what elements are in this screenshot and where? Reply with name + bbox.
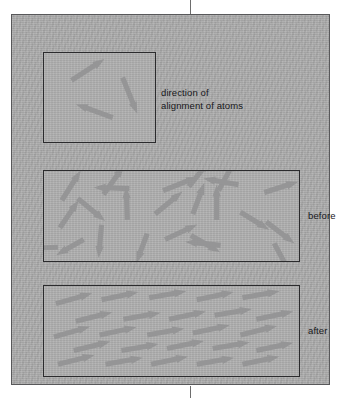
arrow — [73, 338, 112, 355]
arrow — [166, 337, 205, 353]
arrow-glyph — [192, 321, 231, 337]
arrow-glyph — [57, 351, 96, 368]
arrow — [123, 309, 162, 324]
before-box — [43, 170, 300, 262]
arrow-glyph — [44, 243, 58, 252]
arrow-glyph — [123, 309, 162, 324]
arrow-glyph — [255, 339, 294, 355]
arrow-glyph — [55, 289, 94, 307]
arrow — [239, 322, 278, 339]
arrow-glyph — [101, 288, 140, 304]
arrow-glyph — [73, 338, 112, 355]
figure-panel: direction of alignment of atoms before a… — [11, 14, 330, 385]
arrow-glyph — [74, 100, 114, 121]
arrow — [99, 323, 138, 339]
arrow-glyph — [242, 287, 281, 302]
arrow-glyph — [242, 353, 281, 369]
arrow-glyph — [212, 338, 251, 353]
arrow — [152, 188, 185, 217]
before-arrows — [44, 171, 299, 261]
arrow — [264, 219, 297, 247]
arrow-glyph — [121, 340, 160, 355]
arrow-glyph — [255, 308, 294, 324]
arrow-glyph — [132, 232, 151, 261]
arrow-glyph — [239, 322, 278, 339]
arrow — [105, 354, 144, 369]
arrow-glyph — [94, 224, 105, 258]
arrow-glyph — [56, 198, 82, 230]
arrow — [56, 198, 82, 230]
arrow — [101, 288, 140, 304]
key-arrows — [44, 53, 155, 142]
key-box — [43, 52, 156, 143]
arrow-glyph — [196, 354, 235, 369]
registration-rule-bottom — [190, 386, 191, 398]
arrow — [214, 305, 253, 320]
arrow — [44, 243, 58, 252]
arrow-glyph — [99, 323, 138, 339]
arrow-glyph — [166, 337, 205, 353]
arrow — [122, 187, 132, 221]
arrow-glyph — [75, 195, 108, 224]
arrow — [242, 287, 281, 302]
arrow — [196, 354, 235, 369]
after-label: after — [308, 325, 328, 338]
arrow-glyph — [105, 354, 144, 369]
arrow — [150, 353, 189, 369]
arrow — [255, 308, 294, 324]
arrow — [263, 178, 299, 197]
arrow-glyph — [152, 188, 185, 217]
arrow-glyph — [148, 287, 187, 302]
arrow — [75, 308, 114, 325]
arrow-glyph — [75, 308, 114, 325]
arrow — [196, 288, 235, 304]
arrow-glyph — [196, 288, 235, 304]
arrow — [75, 195, 108, 224]
arrow — [55, 289, 94, 307]
registration-rule-top — [190, 0, 191, 14]
arrow — [132, 232, 151, 261]
arrow — [242, 353, 281, 369]
figure-stage: direction of alignment of atoms before a… — [0, 0, 342, 398]
arrow — [212, 338, 251, 353]
before-label: before — [308, 210, 336, 223]
arrow — [53, 323, 92, 341]
arrow — [94, 224, 105, 258]
arrow-glyph — [100, 171, 127, 197]
arrow — [100, 171, 127, 197]
arrow — [168, 308, 207, 324]
after-arrows — [44, 286, 299, 376]
arrow-glyph — [122, 187, 132, 221]
arrow-glyph — [214, 305, 253, 320]
arrow-glyph — [53, 323, 92, 341]
arrow — [121, 340, 160, 355]
arrow-glyph — [264, 219, 297, 247]
arrow-glyph — [263, 178, 299, 197]
arrow-glyph — [54, 236, 86, 259]
arrow — [74, 100, 114, 121]
arrow-glyph — [150, 353, 189, 369]
arrow-glyph — [69, 56, 106, 84]
arrow-glyph — [119, 76, 141, 115]
after-box — [43, 285, 300, 377]
arrow — [148, 287, 187, 302]
arrow — [192, 321, 231, 337]
arrow-glyph — [146, 324, 185, 339]
arrow — [69, 56, 106, 84]
arrow — [57, 351, 96, 368]
arrow — [119, 76, 141, 115]
arrow — [238, 209, 271, 234]
arrow — [255, 339, 294, 355]
arrow-glyph — [238, 209, 271, 234]
arrow — [271, 241, 294, 261]
arrow-glyph — [168, 308, 207, 324]
arrow-glyph — [271, 241, 294, 261]
key-label: direction of alignment of atoms — [161, 87, 271, 112]
arrow — [54, 236, 86, 259]
arrow — [146, 324, 185, 339]
